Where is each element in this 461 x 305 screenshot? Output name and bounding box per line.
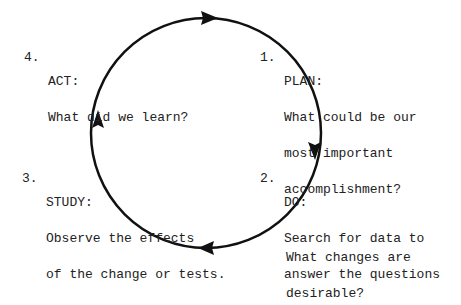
- step-number: 2.: [260, 173, 276, 185]
- step-title: DO:: [284, 197, 440, 209]
- step-text: most important: [284, 148, 417, 160]
- arrow-right-icon: [201, 11, 218, 25]
- step-plan: 1. PLAN: What could be our most importan…: [260, 52, 276, 88]
- step-text: answer the questions: [284, 269, 440, 281]
- step-text: What could be our: [284, 112, 417, 124]
- step-title: ACT:: [48, 76, 188, 88]
- step-act: 4. ACT: What did we learn?: [24, 52, 40, 88]
- step-do: 2. DO: Search for data to answer the que…: [260, 173, 276, 209]
- step-number: 1.: [260, 52, 276, 64]
- step-text: What did we learn?: [48, 112, 188, 124]
- step-text: Observe the effects: [46, 233, 225, 245]
- step-text: Search for data to: [284, 233, 440, 245]
- step-title: PLAN:: [284, 76, 417, 88]
- step-number: 4.: [24, 52, 40, 64]
- step-number: 3.: [22, 173, 38, 185]
- step-study: 3. STUDY: Observe the effects of the cha…: [22, 173, 38, 209]
- step-text: of the change or tests.: [46, 269, 225, 281]
- step-title: STUDY:: [46, 197, 225, 209]
